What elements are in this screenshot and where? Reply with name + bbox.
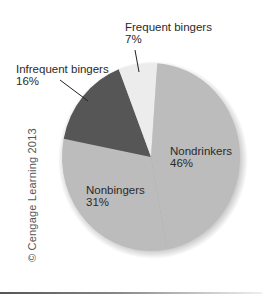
label-nondrinkers-pct: 46% <box>170 157 232 169</box>
label-infrequent-bingers: Infrequent bingers 16% <box>16 63 109 87</box>
copyright-text: © Cengage Learning 2013 <box>26 128 38 262</box>
label-infrequent-pct: 16% <box>16 75 109 87</box>
label-frequent-name: Frequent bingers <box>125 21 212 33</box>
label-nondrinkers-name: Nondrinkers <box>170 145 232 157</box>
label-nonbingers-name: Nonbingers <box>86 184 145 196</box>
label-frequent-bingers: Frequent bingers 7% <box>125 21 212 45</box>
bottom-divider <box>0 292 262 294</box>
label-nondrinkers: Nondrinkers 46% <box>170 145 232 169</box>
label-frequent-pct: 7% <box>125 33 212 45</box>
label-infrequent-name: Infrequent bingers <box>16 63 109 75</box>
label-nonbingers: Nonbingers 31% <box>86 184 145 208</box>
label-nonbingers-pct: 31% <box>86 196 145 208</box>
